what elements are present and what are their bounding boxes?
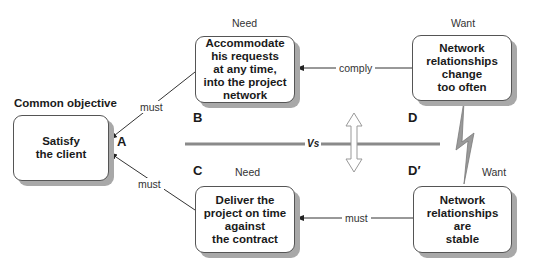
node-c-category: Need bbox=[235, 166, 260, 178]
node-c-deliver-on-time: Deliver the project on time against the … bbox=[195, 186, 295, 253]
edge-b-to-a-label: must bbox=[137, 101, 166, 113]
node-dprime-letter: D′ bbox=[408, 163, 421, 178]
node-d-category: Want bbox=[451, 17, 475, 29]
node-dprime-category: Want bbox=[482, 166, 506, 178]
common-objective-heading: Common objective bbox=[14, 97, 117, 109]
edge-dprime-to-c-label: must bbox=[342, 212, 371, 224]
node-d-change-often: Network relationships change too often bbox=[412, 35, 512, 101]
node-b-letter: B bbox=[193, 110, 202, 125]
edge-c-to-a-label: must bbox=[135, 178, 164, 190]
node-d-letter: D bbox=[408, 110, 417, 125]
node-b-accommodate: Accommodate his requests at any time, in… bbox=[195, 36, 295, 103]
vs-label: Vs bbox=[305, 138, 321, 149]
node-c-letter: C bbox=[193, 163, 202, 178]
lightning-conflict-icon bbox=[456, 101, 474, 184]
node-a-satisfy-client: Satisfy the client bbox=[13, 115, 109, 181]
edge-d-to-b-label: comply bbox=[336, 62, 375, 74]
node-a-letter: A bbox=[117, 134, 126, 149]
node-b-category: Need bbox=[232, 17, 257, 29]
node-dprime-stable: Network relationships are stable bbox=[413, 186, 512, 253]
